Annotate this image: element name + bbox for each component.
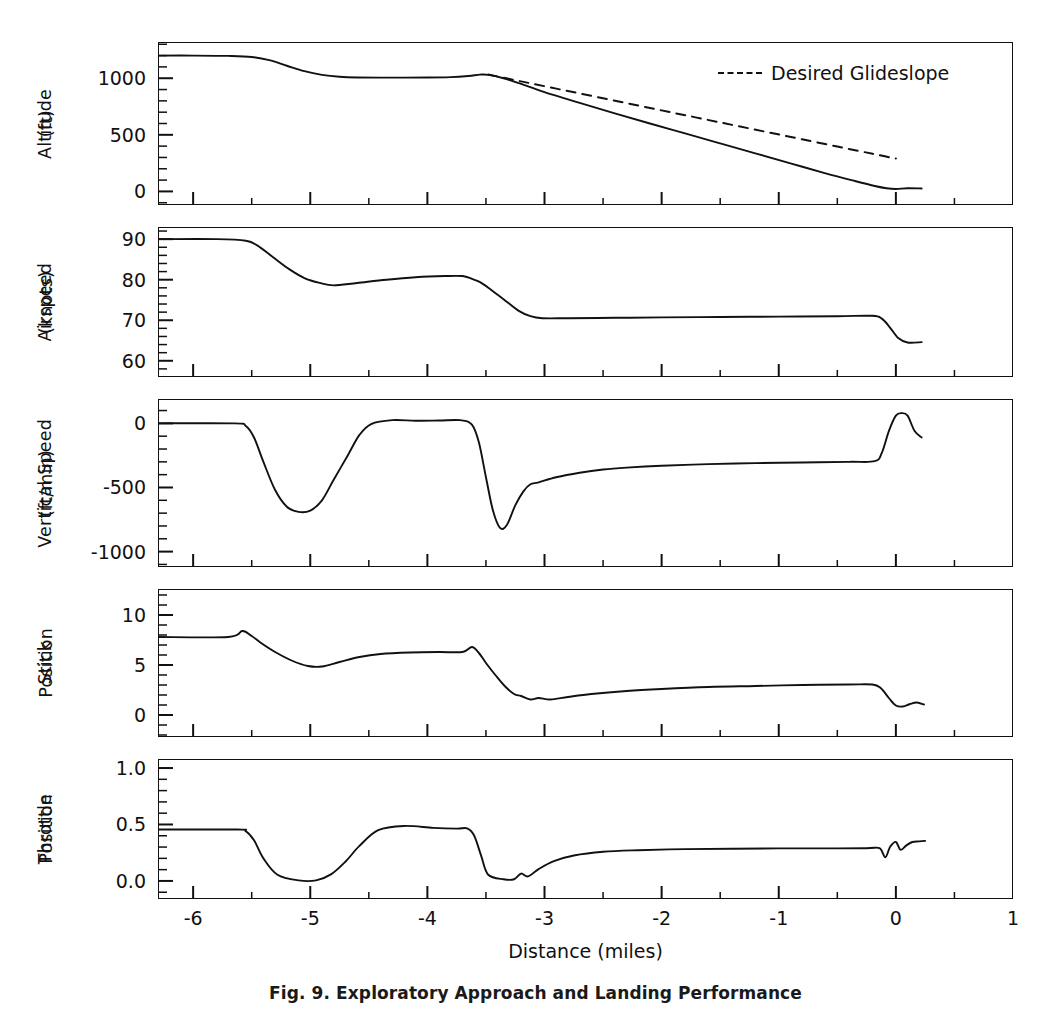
y-axis-label-line2-throttle-position: Position: [37, 794, 55, 864]
legend-desired-glideslope: Desired Glideslope: [718, 62, 949, 84]
xtick-label: -2: [652, 907, 671, 929]
xtick-label: 0: [890, 907, 902, 929]
y-axis-label-line2-airspeed: (knots): [37, 271, 55, 334]
xtick-label: -6: [184, 907, 203, 929]
series-vertical-speed-actual: [158, 413, 922, 529]
y-ticks-airspeed: [158, 231, 173, 369]
figure-root: 10005000Altitude(ft)90807060Airspeed(kno…: [0, 0, 1046, 1010]
x-ticks-throttle-position: [193, 886, 954, 899]
y-ticks-vertical-speed: [158, 411, 173, 565]
legend-label: Desired Glideslope: [771, 62, 949, 84]
y-ticks-altitude: [158, 44, 173, 202]
xtick-label: -4: [418, 907, 437, 929]
plot-canvas-stick-position: [158, 589, 1013, 737]
panel-throttle-position: [158, 759, 1013, 899]
series-altitude-desired: [488, 75, 896, 159]
y-axis-label-line2-altitude: (ft): [37, 110, 55, 137]
legend-dash-icon: [718, 72, 762, 74]
y-axis-label-throttle-position: ThrottlePosition: [22, 759, 68, 899]
plot-canvas-vertical-speed: [158, 399, 1013, 567]
figure-caption: Fig. 9. Exploratory Approach and Landing…: [269, 983, 802, 1003]
x-ticks-vertical-speed: [193, 554, 954, 567]
y-ticks-stick-position: [158, 595, 173, 735]
plot-canvas-throttle-position: [158, 759, 1013, 899]
series-throttle-position-actual: [158, 826, 925, 881]
xtick-label: 1: [1007, 907, 1019, 929]
y-axis-label-stick-position: StickPosition: [22, 589, 68, 737]
plot-canvas-airspeed: [158, 227, 1013, 377]
y-axis-label-vertical-speed: Vertical Speed(ft/min): [22, 399, 68, 567]
series-airspeed-actual: [158, 239, 922, 343]
panel-vertical-speed: [158, 399, 1013, 567]
y-axis-label-line2-stick-position: Position: [37, 628, 55, 698]
x-ticks-airspeed: [193, 364, 954, 377]
y-axis-label-line2-vertical-speed: (ft/min): [37, 450, 55, 517]
x-ticks-altitude: [193, 192, 954, 205]
x-axis-title: Distance (miles): [508, 940, 663, 962]
panel-stick-position: [158, 589, 1013, 737]
xtick-label: -1: [769, 907, 788, 929]
y-axis-label-altitude: Altitude(ft): [22, 42, 68, 205]
x-ticks-stick-position: [193, 724, 954, 737]
y-axis-label-airspeed: Airspeed(knots): [22, 227, 68, 377]
xtick-label: -3: [535, 907, 554, 929]
series-stick-position-actual: [158, 631, 924, 707]
panel-airspeed: [158, 227, 1013, 377]
xtick-label: -5: [301, 907, 320, 929]
